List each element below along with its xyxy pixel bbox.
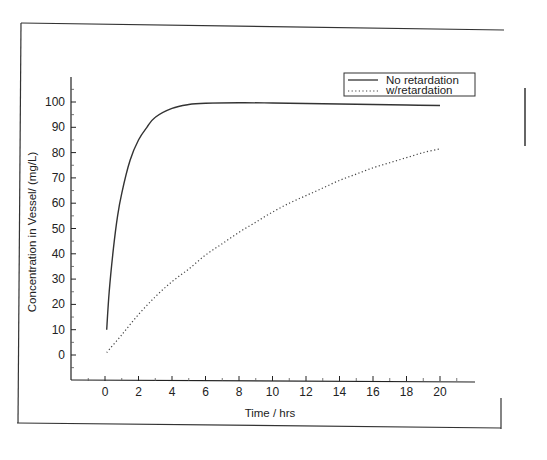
axes xyxy=(71,77,475,382)
x-tick-label: 14 xyxy=(333,385,347,399)
y-tick-label: 70 xyxy=(52,171,66,185)
x-axis-title: Time / hrs xyxy=(245,407,296,419)
y-tick-label: 0 xyxy=(58,348,65,362)
x-tick-label: 16 xyxy=(366,385,380,399)
y-tick-label: 80 xyxy=(52,146,66,160)
y-tick-label: 20 xyxy=(52,297,66,311)
x-axis-ticks: 02468101214161820 xyxy=(88,376,457,399)
y-tick-label: 10 xyxy=(52,323,66,337)
x-tick-label: 18 xyxy=(400,385,414,399)
x-tick-label: 10 xyxy=(266,385,280,399)
y-tick-label: 30 xyxy=(52,272,66,286)
x-tick-label: 8 xyxy=(236,385,243,399)
y-tick-label: 50 xyxy=(52,222,66,236)
x-tick-label: 6 xyxy=(202,385,209,399)
x-tick-label: 2 xyxy=(135,385,142,399)
y-tick-label: 60 xyxy=(52,196,66,210)
series-line-with-retardation xyxy=(107,149,440,353)
x-tick-label: 0 xyxy=(102,385,109,399)
y-tick-label: 90 xyxy=(52,120,66,134)
y-tick-label: 100 xyxy=(45,95,65,109)
chart-figure: 0102030405060708090100 02468101214161820… xyxy=(0,0,547,460)
x-tick-label: 4 xyxy=(169,385,176,399)
plot-area xyxy=(107,103,440,353)
x-tick-label: 20 xyxy=(433,385,447,399)
y-tick-label: 40 xyxy=(52,247,66,261)
y-axis-title: Concentration in Vessel/ (mg/L) xyxy=(26,152,38,313)
x-tick-label: 12 xyxy=(299,385,313,399)
legend-label-with-retardation: w/retardation xyxy=(385,84,452,96)
legend: No retardation w/retardation xyxy=(344,73,475,96)
